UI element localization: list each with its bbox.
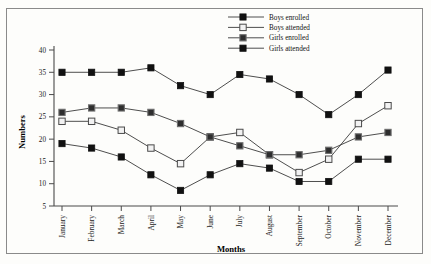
data-point — [296, 169, 302, 175]
y-tick-label: 25 — [39, 113, 47, 121]
legend-label: Boys enrolled — [269, 14, 310, 22]
legend-item-boys-enrolled[interactable]: Boys enrolled — [228, 14, 310, 22]
series-boys-enrolled — [59, 65, 391, 118]
data-point — [118, 127, 124, 133]
x-axis-title: Months — [217, 244, 246, 254]
y-tick-label: 5 — [42, 203, 46, 211]
data-point — [89, 105, 95, 111]
legend-label: Girls attended — [269, 45, 310, 53]
x-tick-label-october: October — [324, 214, 333, 238]
x-tick-label-february: February — [87, 215, 96, 242]
legend-marker — [240, 45, 246, 51]
data-point — [326, 147, 332, 153]
data-point — [207, 91, 213, 97]
y-tick-label: 10 — [39, 180, 47, 188]
y-tick-label: 15 — [39, 158, 47, 166]
chart-legend: Boys enrolledBoys attendedGirls enrolled… — [228, 14, 310, 53]
data-point — [207, 172, 213, 178]
data-point — [326, 112, 332, 118]
legend-marker — [240, 24, 246, 30]
series-girls-attended — [59, 141, 391, 194]
data-point — [59, 109, 65, 115]
legend-label: Girls enrolled — [269, 34, 309, 42]
data-point — [355, 134, 361, 140]
data-point — [266, 76, 272, 82]
legend-marker — [240, 35, 246, 41]
data-point — [177, 83, 183, 89]
data-point — [385, 129, 391, 135]
x-tick-label-august: August — [265, 214, 274, 236]
y-axis-title: Numbers — [17, 114, 27, 149]
data-point — [385, 156, 391, 162]
data-point — [296, 178, 302, 184]
data-point — [148, 65, 154, 71]
data-point — [326, 178, 332, 184]
x-axis: JanuaryFebruaryMarchAprilMayJuneJulyAugu… — [54, 206, 398, 247]
data-point — [89, 145, 95, 151]
x-tick-label-july: July — [235, 215, 244, 228]
x-tick-label-april: April — [147, 215, 156, 231]
data-point — [118, 154, 124, 160]
data-point — [266, 152, 272, 158]
series-boys-attended — [59, 103, 391, 176]
data-point — [237, 71, 243, 77]
data-point — [326, 156, 332, 162]
y-axis: 510152025303540 — [39, 46, 54, 211]
x-tick-label-january: January — [58, 215, 67, 238]
data-point — [385, 103, 391, 109]
data-series-group — [59, 65, 391, 194]
data-point — [237, 129, 243, 135]
data-point — [237, 143, 243, 149]
data-point — [59, 141, 65, 147]
x-tick-label-june: June — [206, 214, 215, 228]
data-point — [148, 172, 154, 178]
data-point — [266, 165, 272, 171]
data-point — [59, 69, 65, 75]
data-point — [207, 134, 213, 140]
x-tick-label-december: December — [384, 214, 393, 245]
data-point — [148, 145, 154, 151]
data-point — [355, 91, 361, 97]
legend-item-girls-enrolled[interactable]: Girls enrolled — [228, 34, 309, 42]
legend-marker — [240, 14, 246, 20]
series-girls-enrolled — [59, 105, 391, 158]
line-chart-plot: 510152025303540 JanuaryFebruaryMarchApri… — [0, 0, 431, 264]
data-point — [296, 152, 302, 158]
data-point — [118, 69, 124, 75]
x-tick-label-may: May — [176, 215, 185, 229]
data-point — [89, 69, 95, 75]
legend-item-boys-attended[interactable]: Boys attended — [228, 24, 310, 32]
y-tick-label: 35 — [39, 69, 47, 77]
chart-figure: 510152025303540 JanuaryFebruaryMarchApri… — [0, 0, 431, 264]
data-point — [385, 67, 391, 73]
data-point — [177, 187, 183, 193]
data-point — [355, 120, 361, 126]
data-point — [296, 91, 302, 97]
data-point — [88, 118, 94, 124]
data-point — [118, 105, 124, 111]
data-point — [237, 161, 243, 167]
data-point — [59, 118, 65, 124]
data-point — [177, 120, 183, 126]
y-tick-label: 20 — [39, 136, 47, 144]
data-point — [355, 156, 361, 162]
legend-label: Boys attended — [269, 24, 310, 32]
y-tick-label: 40 — [39, 47, 47, 55]
x-tick-label-september: September — [295, 214, 304, 246]
x-tick-label-november: November — [354, 214, 363, 246]
legend-item-girls-attended[interactable]: Girls attended — [228, 45, 310, 53]
data-point — [177, 160, 183, 166]
y-tick-label: 30 — [39, 91, 47, 99]
x-tick-label-march: March — [117, 215, 126, 235]
data-point — [148, 109, 154, 115]
